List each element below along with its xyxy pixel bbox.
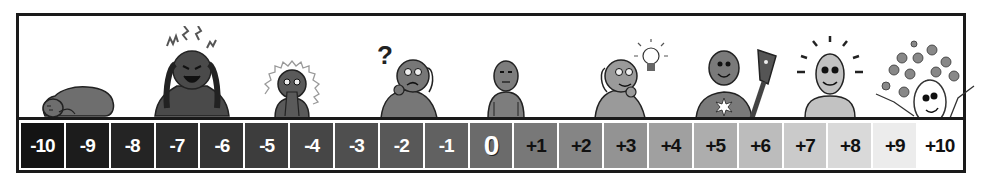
scale-cell: -7 bbox=[156, 123, 199, 168]
scale-cell: +9 bbox=[873, 123, 916, 168]
scale-cell-label: +1 bbox=[526, 135, 546, 157]
scale-cell-label: +6 bbox=[750, 135, 770, 157]
scale-cell-label: -7 bbox=[170, 135, 185, 157]
scale-cell: +1 bbox=[514, 123, 557, 168]
curled-up-despair-figure-icon bbox=[39, 78, 119, 118]
scale-cell: -6 bbox=[200, 123, 243, 168]
scale-cell: +8 bbox=[828, 123, 871, 168]
scale-cell: +10 bbox=[918, 123, 961, 168]
screaming-hands-on-head-figure-icon bbox=[147, 26, 237, 118]
scale-cell: +3 bbox=[604, 123, 647, 168]
shocked-anxious-figure-icon bbox=[257, 54, 327, 118]
scale-cell-label: +10 bbox=[925, 135, 954, 157]
scale-cell: +4 bbox=[649, 123, 692, 168]
emotion-scale-frame: ? bbox=[16, 13, 966, 173]
scale-cell: -5 bbox=[245, 123, 288, 168]
scale-cell: +7 bbox=[784, 123, 827, 168]
scale-cell-label: -3 bbox=[349, 135, 364, 157]
scale-cell-label: 0 bbox=[484, 130, 499, 162]
ecstatic-stars-figure-icon bbox=[874, 36, 984, 118]
scale-cell: +5 bbox=[694, 123, 737, 168]
scale-cell-label: +2 bbox=[571, 135, 591, 157]
scale-cell-label: -1 bbox=[439, 135, 454, 157]
scale-cell-label: -5 bbox=[259, 135, 274, 157]
scale-cell-label: -2 bbox=[394, 135, 409, 157]
scale-cell-label: +3 bbox=[616, 135, 636, 157]
scale-cell-label: +8 bbox=[840, 135, 860, 157]
scale-cell: -8 bbox=[111, 123, 154, 168]
scale-cell-label: +4 bbox=[661, 135, 681, 157]
scale-cell-label: +9 bbox=[885, 135, 905, 157]
scale-cell: -1 bbox=[425, 123, 468, 168]
torch-bearer-star-figure-icon bbox=[694, 46, 789, 118]
scale-cell-label: -8 bbox=[125, 135, 140, 157]
scale-cell-label: +5 bbox=[705, 135, 725, 157]
figure-row: ? bbox=[19, 16, 963, 117]
scale-cell-label: -9 bbox=[80, 135, 95, 157]
scale-cell: -2 bbox=[380, 123, 423, 168]
scale-cell-label: +7 bbox=[795, 135, 815, 157]
svg-text:?: ? bbox=[377, 40, 393, 70]
idea-lightbulb-figure-icon bbox=[589, 38, 679, 118]
emotion-scale-bar: -10-9-8-7-6-5-4-3-2-10+1+2+3+4+5+6+7+8+9… bbox=[21, 123, 961, 168]
scale-cell: -4 bbox=[290, 123, 333, 168]
scale-cell: -9 bbox=[66, 123, 109, 168]
scale-cell: -10 bbox=[21, 123, 64, 168]
scale-cell: +2 bbox=[559, 123, 602, 168]
scale-cell-label: -10 bbox=[30, 135, 54, 157]
scale-cell-label: -4 bbox=[304, 135, 319, 157]
scale-cell-label: -6 bbox=[214, 135, 229, 157]
row-divider bbox=[19, 117, 963, 120]
scale-cell: -3 bbox=[335, 123, 378, 168]
scale-cell: 0 bbox=[470, 123, 513, 168]
radiant-happy-figure-icon bbox=[795, 36, 865, 118]
neutral-standing-figure-icon bbox=[484, 54, 528, 118]
confused-question-figure-icon: ? bbox=[371, 38, 451, 118]
scale-cell: +6 bbox=[739, 123, 782, 168]
